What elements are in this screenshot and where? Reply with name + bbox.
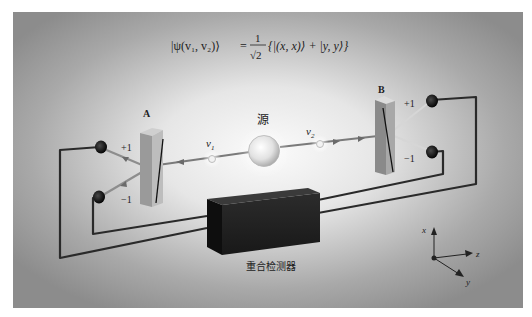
detector-a-plus bbox=[95, 141, 107, 154]
detector-a-minus bbox=[93, 191, 105, 204]
analyzer-a-minus-label: −1 bbox=[121, 194, 132, 205]
detector-b-minus bbox=[426, 146, 438, 159]
formula-numerator: 1 bbox=[255, 32, 261, 44]
entanglement-diagram: |ψ(v₁, v₂)⟩ = 1 √2 {|(x, x)⟩ + |y, y⟩} bbox=[0, 0, 532, 317]
axis-x-label: x bbox=[421, 225, 426, 235]
coincidence-detector-label: 重合检测器 bbox=[246, 260, 296, 272]
axis-z-label: z bbox=[475, 249, 480, 259]
analyzer-b-minus-label: −1 bbox=[404, 153, 415, 164]
analyzer-b-plus-label: +1 bbox=[404, 98, 415, 109]
formula-lhs: |ψ(v₁, v₂)⟩ bbox=[171, 39, 220, 53]
formula-equals: = bbox=[240, 39, 247, 53]
axis-y-label: y bbox=[465, 277, 470, 287]
analyzer-a-plus-label: +1 bbox=[121, 142, 132, 153]
analyzer-b-label: B bbox=[378, 84, 385, 95]
analyzer-a-label: A bbox=[143, 108, 151, 119]
formula-denominator: √2 bbox=[250, 49, 262, 61]
detector-b-plus bbox=[426, 95, 438, 108]
source-label: 源 bbox=[257, 113, 269, 127]
formula-rhs: {|(x, x)⟩ + |y, y⟩} bbox=[268, 39, 348, 53]
